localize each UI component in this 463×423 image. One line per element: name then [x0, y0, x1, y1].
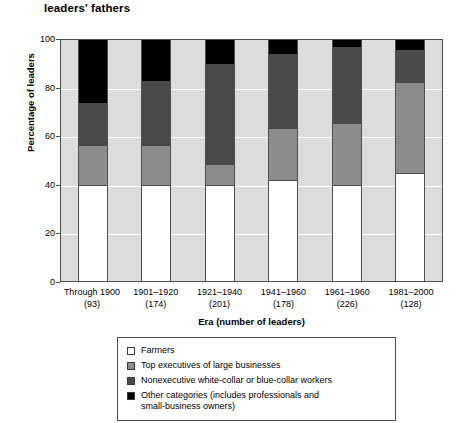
bar-segment — [141, 40, 171, 81]
bar-segment — [268, 54, 298, 129]
x-tick-label: 1941–1960(178) — [252, 286, 314, 310]
bar-segment — [395, 173, 425, 281]
bar-segment — [141, 185, 171, 281]
bar-segment — [78, 185, 108, 281]
legend-item-label: Other categories (includes professionals… — [141, 390, 319, 412]
y-axis-label: Percentage of leaders — [25, 13, 36, 193]
black-swatch — [127, 392, 135, 400]
x-axis-tick-labels: Through 1900(93)1901–1920(174)1921–1940(… — [60, 286, 443, 310]
x-tick-label: 1901–1920(174) — [125, 286, 187, 310]
x-tick-count: (226) — [316, 298, 378, 310]
legend-item[interactable]: Farmers — [127, 345, 386, 356]
bar-segment — [78, 103, 108, 146]
bar-segment — [268, 180, 298, 281]
x-tick-era: 1941–1960 — [252, 286, 314, 298]
bar-segment — [395, 83, 425, 172]
bar-segment — [268, 129, 298, 180]
bar-segment — [268, 40, 298, 54]
chart-legend: FarmersTop executives of large businesse… — [117, 337, 396, 421]
x-tick-count: (174) — [125, 298, 187, 310]
bar-segment — [205, 64, 235, 165]
x-tick-count: (128) — [380, 298, 442, 310]
bar-2[interactable] — [141, 40, 171, 281]
x-tick-era: Through 1900 — [61, 286, 123, 298]
x-tick-label: 1961–1960(226) — [316, 286, 378, 310]
bar-segment — [395, 50, 425, 84]
legend-item[interactable]: Other categories (includes professionals… — [127, 390, 386, 412]
plot-area — [60, 39, 443, 282]
y-tick-label: 40 — [45, 180, 55, 190]
y-tick-label: 80 — [45, 83, 55, 93]
legend-item-label: Nonexecutive white-collar or blue-collar… — [141, 375, 332, 386]
y-tick-label: 100 — [40, 34, 55, 44]
bar-segment — [332, 47, 362, 124]
x-axis-label: Era (number of leaders) — [60, 316, 443, 327]
y-tick-label: 60 — [45, 131, 55, 141]
bar-segment — [78, 40, 108, 103]
legend-item[interactable]: Nonexecutive white-collar or blue-collar… — [127, 375, 386, 386]
light-gray-swatch — [127, 362, 135, 370]
legend-item-label: Farmers — [141, 345, 175, 356]
legend-item-label-line2: small-business owners) — [141, 401, 319, 412]
bar-3[interactable] — [205, 40, 235, 281]
x-tick-era: 1921–1940 — [189, 286, 251, 298]
x-tick-label: 1981–2000(128) — [380, 286, 442, 310]
bar-segment — [395, 40, 425, 50]
bar-segment — [205, 165, 235, 184]
bar-segment — [141, 81, 171, 146]
y-tick-mark — [56, 282, 60, 283]
bar-segment — [332, 124, 362, 184]
x-tick-label: 1921–1940(201) — [189, 286, 251, 310]
bar-segment — [332, 185, 362, 281]
bar-6[interactable] — [395, 40, 425, 281]
x-tick-count: (178) — [252, 298, 314, 310]
x-tick-era: 1961–1960 — [316, 286, 378, 298]
bar-series-group — [61, 40, 442, 281]
bar-segment — [332, 40, 362, 47]
x-tick-count: (93) — [61, 298, 123, 310]
dark-gray-swatch — [127, 377, 135, 385]
y-tick-label: 20 — [45, 228, 55, 238]
x-tick-era: 1981–2000 — [380, 286, 442, 298]
legend-item-label: Top executives of large businesses — [141, 360, 281, 371]
x-tick-era: 1901–1920 — [125, 286, 187, 298]
y-tick-label: 0 — [50, 277, 55, 287]
legend-item[interactable]: Top executives of large businesses — [127, 360, 386, 371]
bar-5[interactable] — [332, 40, 362, 281]
bar-segment — [205, 40, 235, 64]
white-swatch — [127, 347, 135, 355]
x-tick-count: (201) — [189, 298, 251, 310]
bar-segment — [141, 146, 171, 185]
bar-4[interactable] — [268, 40, 298, 281]
bar-segment — [205, 185, 235, 281]
x-tick-label: Through 1900(93) — [61, 286, 123, 310]
bar-segment — [78, 146, 108, 185]
bar-1[interactable] — [78, 40, 108, 281]
